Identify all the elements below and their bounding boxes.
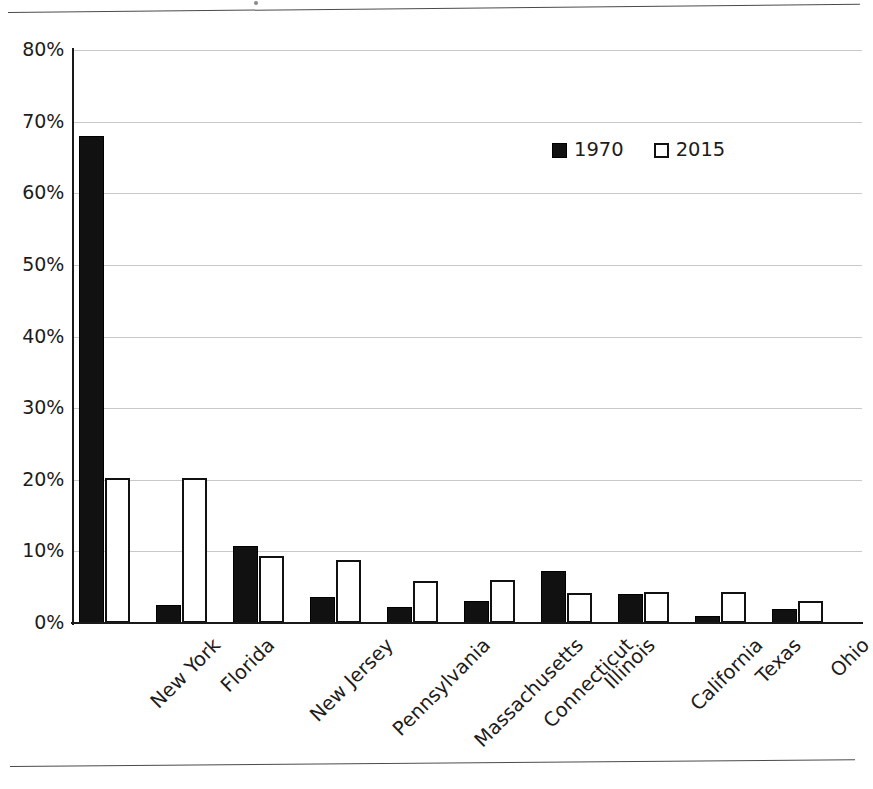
- x-axis-label-florida: Florida: [217, 635, 278, 696]
- legend-item-1970: 1970: [552, 140, 624, 160]
- legend-label: 2015: [676, 140, 726, 160]
- legend-item-2015: 2015: [654, 140, 726, 160]
- x-axis-label-new-jersey: New Jersey: [306, 635, 397, 726]
- filled-square-icon: [552, 143, 567, 158]
- chart-legend: 19702015: [552, 140, 725, 160]
- legend-label: 1970: [574, 140, 624, 160]
- x-axis-label-ohio: Ohio: [827, 635, 873, 681]
- x-axis-label-pennsylvania: Pennsylvania: [389, 635, 494, 740]
- hollow-square-icon: [654, 143, 669, 158]
- x-axis-label-new-york: New York: [147, 635, 224, 712]
